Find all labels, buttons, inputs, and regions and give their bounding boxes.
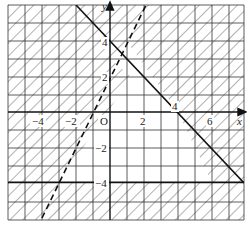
y-axis-label: y (101, 0, 107, 12)
y-tick-4: 4 (102, 36, 108, 48)
y-axis-arrow-icon (107, 2, 114, 10)
y-tick-minus-4: −4 (95, 177, 107, 189)
x-tick-minus-2: −2 (65, 115, 77, 127)
inequality-graph: −4 −2 O 2 4 6 x 4 2 −2 −4 y (0, 0, 247, 225)
x-tick-2: 2 (140, 115, 146, 127)
origin-label: O (100, 115, 108, 127)
x-tick-4: 4 (172, 100, 178, 112)
x-tick-6: 6 (207, 115, 213, 127)
x-tick-minus-4: −4 (32, 115, 44, 127)
y-tick-2: 2 (102, 71, 108, 83)
y-tick-minus-2: −2 (95, 142, 107, 154)
x-axis-label: x (236, 115, 242, 127)
